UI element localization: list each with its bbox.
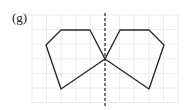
symmetry-diagram — [0, 0, 184, 110]
